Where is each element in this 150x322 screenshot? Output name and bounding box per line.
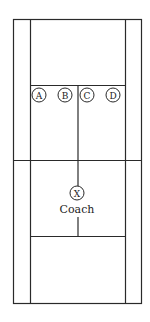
tennis-court-diagram: A B C D X Coach	[0, 0, 150, 322]
coach-label: Coach	[60, 203, 95, 216]
player-c-marker: C	[80, 88, 94, 102]
player-label: D	[109, 91, 116, 101]
coach-marker: X	[70, 186, 84, 200]
coach-symbol: X	[74, 189, 81, 199]
player-label: B	[62, 91, 69, 101]
player-label: C	[84, 91, 91, 101]
player-label: A	[35, 91, 43, 101]
player-b-marker: B	[58, 88, 72, 102]
player-a-marker: A	[32, 88, 46, 102]
player-d-marker: D	[106, 88, 120, 102]
